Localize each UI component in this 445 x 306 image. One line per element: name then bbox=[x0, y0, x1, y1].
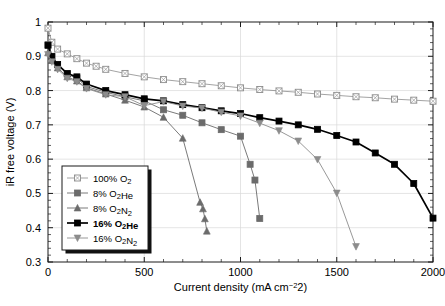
series-marker bbox=[372, 150, 378, 156]
legend-marker-sample bbox=[75, 220, 81, 226]
y-axis-title: iR free voltage (V) bbox=[4, 98, 16, 187]
series-marker bbox=[314, 156, 321, 163]
series-marker bbox=[197, 199, 204, 206]
series-marker bbox=[160, 114, 167, 121]
x-tick-label: 500 bbox=[135, 266, 153, 278]
x-tick-label: 1000 bbox=[228, 266, 252, 278]
series-marker bbox=[218, 127, 224, 133]
chart-figure: 05001000150020000.30.40.50.60.70.80.91 C… bbox=[0, 0, 445, 306]
y-tick-label: 0.9 bbox=[26, 50, 41, 62]
chart-svg: 05001000150020000.30.40.50.60.70.80.91 C… bbox=[0, 0, 445, 306]
series-marker bbox=[199, 120, 205, 126]
y-tick-label: 0.4 bbox=[26, 222, 41, 234]
y-tick-label: 0.7 bbox=[26, 119, 41, 131]
x-tick-label: 2000 bbox=[421, 266, 445, 278]
series-marker bbox=[295, 122, 301, 128]
series-marker bbox=[257, 115, 263, 121]
y-tick-label: 0.6 bbox=[26, 153, 41, 165]
x-tick-label: 0 bbox=[45, 266, 51, 278]
series-marker bbox=[45, 42, 51, 48]
legend-marker-sample bbox=[75, 190, 81, 196]
series-marker bbox=[430, 215, 436, 221]
series-marker bbox=[276, 118, 282, 124]
series-marker bbox=[252, 177, 258, 183]
series-marker bbox=[161, 107, 167, 113]
y-tick-label: 0.8 bbox=[26, 85, 41, 97]
series-marker bbox=[334, 132, 340, 138]
chart-legend[interactable]: 100% O28% O2He8% O2N216% O2He16% O2N2 bbox=[62, 166, 152, 254]
y-tick-label: 1 bbox=[35, 16, 41, 28]
series-marker bbox=[238, 133, 244, 139]
axis-titles: Current density (mA cm−22)iR free voltag… bbox=[4, 98, 307, 293]
series-marker bbox=[411, 180, 417, 186]
y-tick-label: 0.3 bbox=[26, 256, 41, 268]
series-marker bbox=[200, 205, 207, 212]
series-marker bbox=[201, 215, 208, 222]
series-marker bbox=[141, 96, 147, 102]
series-marker bbox=[276, 128, 283, 135]
x-axis-title: Current density (mA cm−22) bbox=[174, 281, 307, 294]
series-marker bbox=[180, 112, 186, 118]
series-marker bbox=[257, 215, 263, 221]
series-marker bbox=[256, 120, 263, 127]
series-marker bbox=[392, 161, 398, 167]
y-tick-label: 0.5 bbox=[26, 187, 41, 199]
series-marker bbox=[315, 126, 321, 132]
series-marker bbox=[247, 161, 253, 167]
series-marker bbox=[353, 139, 359, 145]
series-marker bbox=[353, 244, 360, 251]
x-tick-label: 1500 bbox=[325, 266, 349, 278]
series-marker bbox=[203, 228, 210, 235]
